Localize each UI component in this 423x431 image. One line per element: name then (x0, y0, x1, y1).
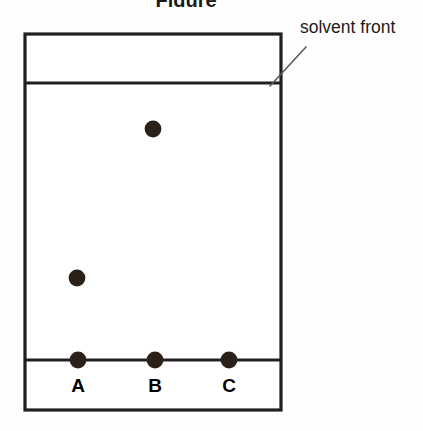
tlc-plate-drawing: solvent front A B C (0, 0, 423, 431)
lane-label-c: C (222, 375, 236, 396)
origin-spot-a (70, 352, 87, 369)
developed-spot-a (69, 270, 86, 287)
lane-label-a: A (71, 375, 85, 396)
lane-label-b: B (148, 375, 162, 396)
origin-spot-b (147, 352, 164, 369)
tlc-figure: Figure solvent front A B C (0, 0, 423, 431)
developed-spot-b (145, 121, 162, 138)
solvent-front-label: solvent front (300, 17, 395, 37)
origin-spot-c (221, 352, 238, 369)
